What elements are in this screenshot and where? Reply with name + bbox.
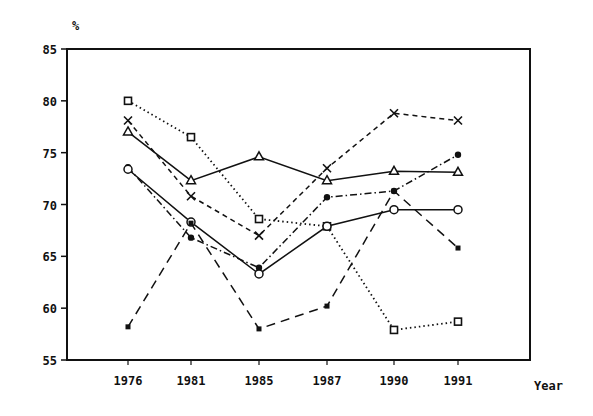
triangle-marker-icon <box>255 152 264 160</box>
y-tick-label: 60 <box>43 302 57 316</box>
x-marker-icon <box>255 232 263 240</box>
small-square-marker-icon <box>257 326 262 331</box>
x-marker-icon <box>454 117 462 125</box>
square-marker-icon <box>125 97 132 104</box>
x-tick-label: 1976 <box>114 374 143 388</box>
circle-marker-icon <box>323 222 331 230</box>
series-triangle-solid <box>124 127 463 184</box>
small-square-marker-icon <box>189 221 194 226</box>
series-open-circle-solid <box>124 165 462 278</box>
small-square-marker-icon <box>325 304 330 309</box>
series-layer <box>124 97 463 333</box>
square-marker-icon <box>391 326 398 333</box>
x-tick-label: 1991 <box>444 374 473 388</box>
line-chart: 55606570758085 197619811985198719901991 … <box>0 0 593 416</box>
series-line <box>128 101 458 330</box>
small-square-marker-icon <box>456 246 461 251</box>
x-marker-icon <box>323 164 331 172</box>
y-axis-unit-label: % <box>72 19 80 33</box>
dot-marker-icon <box>455 152 461 158</box>
x-marker-icon <box>124 117 132 125</box>
x-marker-icon <box>187 192 195 200</box>
circle-marker-icon <box>454 206 462 214</box>
series-cross-dashed <box>124 109 462 239</box>
y-tick-label: 70 <box>43 199 57 213</box>
square-marker-icon <box>455 318 462 325</box>
dot-marker-icon <box>188 234 194 240</box>
x-axis: 197619811985198719901991 <box>114 360 473 388</box>
x-tick-label: 1985 <box>245 374 274 388</box>
triangle-marker-icon <box>390 166 399 174</box>
circle-marker-icon <box>255 270 263 278</box>
series-open-square-dotted <box>125 97 462 333</box>
y-tick-label: 85 <box>43 43 57 57</box>
y-tick-label: 80 <box>43 95 57 109</box>
square-marker-icon <box>256 216 263 223</box>
series-line <box>128 132 458 181</box>
x-tick-label: 1981 <box>177 374 206 388</box>
y-tick-label: 55 <box>43 354 57 368</box>
x-tick-label: 1990 <box>380 374 409 388</box>
y-tick-label: 65 <box>43 250 57 264</box>
triangle-marker-icon <box>454 167 463 175</box>
y-tick-label: 75 <box>43 147 57 161</box>
dot-marker-icon <box>324 194 330 200</box>
x-axis-title: Year <box>534 379 563 393</box>
y-axis: 55606570758085 <box>43 43 67 368</box>
small-square-marker-icon <box>126 324 131 329</box>
triangle-marker-icon <box>124 127 133 135</box>
square-marker-icon <box>188 134 195 141</box>
circle-marker-icon <box>390 206 398 214</box>
small-square-marker-icon <box>392 189 397 194</box>
circle-marker-icon <box>124 165 132 173</box>
x-tick-label: 1987 <box>313 374 342 388</box>
series-line <box>128 113 458 235</box>
